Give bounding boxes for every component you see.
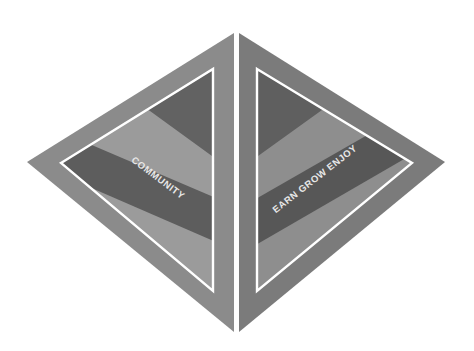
- diamond-diagram: COMMUNITY EARN GROW ENJOY: [0, 0, 474, 351]
- right-triangle: EARN GROW ENJOY: [239, 33, 445, 332]
- right-inner-fill: [240, 40, 430, 300]
- left-triangle: COMMUNITY: [27, 33, 234, 332]
